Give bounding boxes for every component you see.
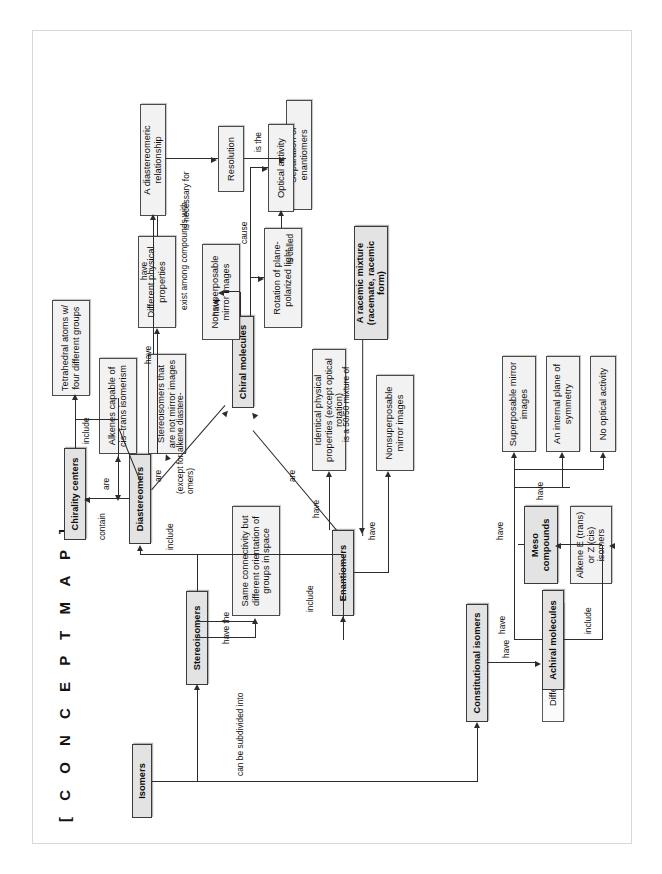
edge-label-are-enantiomers-chiral: are	[288, 470, 298, 482]
arrowhead-alkene-ez-isomers	[609, 543, 615, 549]
edge-diffphys-to-relationship	[157, 216, 158, 236]
arrowhead-optical-activity	[278, 210, 284, 216]
arrowhead-constitutional	[474, 722, 480, 728]
arrowhead-diastereomers-from-alkenes	[115, 495, 121, 501]
node-diastereomers[interactable]: Diastereomers	[129, 454, 151, 544]
edge-label-include-chirality: include	[82, 417, 92, 444]
node-superposable-mirror-images[interactable]: Superposable mirror images	[502, 356, 536, 452]
arrowhead-resolution	[211, 157, 217, 163]
page-title: [ C O N C E P T M A P ]	[56, 523, 73, 822]
edge-isomers-to-constitutional	[477, 726, 478, 782]
arrowhead-same-connectivity	[252, 618, 258, 624]
node-isomers[interactable]: Isomers	[132, 744, 152, 818]
node-achiral-molecules[interactable]: Achiral molecules	[542, 590, 564, 690]
edge-enantiomers-to-mirror-h2	[388, 475, 389, 573]
edge-chiral-to-mirror-h2	[240, 292, 241, 316]
node-chirality-centers[interactable]: Chirality centers	[64, 448, 86, 540]
node-optical-activity[interactable]: Optical activity	[268, 124, 294, 212]
edge-achiral-include-v	[564, 639, 602, 640]
edge-achiral-to-meso-v	[558, 544, 602, 545]
node-racemic-mixture[interactable]: A racemic mixture (racemate, racemic for…	[354, 226, 388, 340]
edge-label-include-achiral: include	[584, 607, 594, 634]
edge-label-are-alkenes: are	[102, 478, 112, 490]
edge-label-have-constitutional: have	[502, 640, 512, 658]
edge-label-is-necessary-for: is necessary for	[182, 171, 192, 230]
node-meso-compounds[interactable]: Meso compounds	[524, 506, 558, 584]
edge-achiral-include-h2	[602, 545, 603, 640]
arrowhead-meso-compounds	[555, 543, 561, 549]
node-stereoisomers[interactable]: Stereoisomers	[186, 591, 208, 685]
edge-chiral-cause-h	[250, 168, 251, 316]
rotated-stage: [ C O N C E P T M A P ] Isomers Constitu…	[36, 34, 628, 840]
edge-achiral-have-h	[514, 456, 515, 640]
arrowhead-nonsuperposable-enantiomers	[385, 471, 391, 477]
node-internal-plane-of-symmetry[interactable]: An internal plane of symmetry	[546, 356, 580, 452]
edge-sameconn-in	[255, 622, 256, 638]
edge-chiral-to-mirror-v	[222, 291, 240, 292]
edge-achiral-have-nooptical-h	[603, 456, 604, 470]
edge-achiral-have-v	[514, 639, 542, 640]
edge-label-have-the: have the	[222, 612, 232, 644]
edge-meso-have-v	[518, 544, 524, 545]
edge-label-have-alkene-ez: have	[536, 482, 546, 500]
edge-label-cause: cause	[240, 222, 250, 244]
node-rotation-plane-polarized-light[interactable]: Rotation of plane-polarized light	[264, 228, 302, 328]
arrowhead-optical-activity-from-chiral	[262, 166, 268, 172]
edge-label-have-achiral: have	[498, 616, 508, 634]
node-alkene-ez-isomers[interactable]: Alkene E (trans) or Z (cis) isomers	[570, 506, 612, 584]
edge-label-have-meso: have	[496, 522, 506, 540]
edge-enantiomers-to-mirror-v	[354, 572, 388, 573]
arrowhead-diastereomers	[137, 545, 143, 551]
edge-stereo-trunk-right	[197, 555, 198, 591]
arrowhead-enantiomers	[340, 616, 346, 622]
edge-stereo-to-enantiomers-v	[197, 554, 343, 555]
edge-constitutional-to-connectivity	[488, 662, 536, 663]
edge-label-can-be-subdivided-into: can be subdivided into	[236, 693, 246, 776]
edge-label-have-enantiomers-mirror: have	[368, 522, 378, 540]
arrowhead-not-mirror	[163, 453, 171, 461]
arrowhead-different-connectivity	[535, 661, 541, 667]
edge-notmirror-to-relationship	[153, 216, 154, 354]
edge-alkene-have-v	[562, 487, 570, 488]
edge-label-include-diastereomers: include	[166, 523, 176, 550]
edge-achiral-have-internal-h	[562, 456, 563, 488]
edge-isomers-to-stereoisomers	[197, 688, 198, 782]
edge-stereo-to-diastereomers-v	[140, 554, 197, 555]
edge-racemic-to-enantiomers	[362, 340, 363, 536]
edge-enantiomers-to-identical	[329, 475, 330, 530]
arrowhead-chirality-centers	[84, 497, 90, 503]
edge-label-have-chiral-mirror: have	[212, 298, 222, 316]
edge-label-is-the: is the	[254, 132, 264, 152]
arrowhead-diastereomeric-relationship-a	[150, 214, 156, 220]
edge-diastereomers-to-chirality-v	[86, 498, 129, 499]
arrowhead-tetrahedral	[72, 394, 78, 400]
node-same-connectivity[interactable]: Same connectivity but different orientat…	[232, 506, 280, 616]
node-nonsuperposable-mirror-images-enantiomers[interactable]: Nonsuperposable mirror images	[376, 375, 414, 471]
arrowhead-no-optical-activity	[600, 452, 606, 458]
concept-map-canvas: [ C O N C E P T M A P ] Isomers Constitu…	[36, 34, 628, 840]
edge-achiral-have-nooptical-v	[514, 469, 603, 470]
node-diastereomeric-relationship[interactable]: A diastereomeric relationship	[140, 104, 166, 216]
arrowhead-different-physical	[154, 328, 160, 334]
edge-label-contain: contain	[98, 513, 108, 540]
node-different-physical-properties[interactable]: Different physical properties	[138, 236, 176, 328]
edge-label-have-to-diastereomeric: have	[140, 262, 150, 280]
arrowhead-superposable-mirror	[511, 452, 517, 458]
edge-label-include-enantiomers: include	[306, 585, 316, 612]
edge-chirality-include-h	[75, 396, 76, 448]
arrowhead-separation	[279, 157, 285, 163]
node-constitutional-isomers[interactable]: Constitutional isomers	[466, 604, 488, 722]
concept-map-page: [ C O N C E P T M A P ] Isomers Constitu…	[0, 0, 662, 874]
arrowhead-enantiomers-from-racemic	[359, 528, 365, 534]
edge-alkenes-are-h	[118, 454, 119, 499]
edge-label-have-enantiomers-identical: have	[312, 500, 322, 518]
node-tetrahedral-atoms[interactable]: Tetrahedral atoms w/ four different grou…	[52, 300, 90, 396]
edge-label-is-called: is called	[286, 234, 296, 264]
edge-stereo-to-enantiomers-h	[343, 555, 344, 640]
node-no-optical-activity[interactable]: No optical activity	[590, 356, 616, 452]
arrowhead-nonsuperposable-chiral	[218, 290, 224, 296]
arrowhead-internal-plane	[559, 452, 565, 458]
edge-label-except-alkene-diastereomers: (except for alkene diastere- omers)	[176, 393, 195, 494]
node-resolution[interactable]: Resolution	[218, 126, 244, 192]
arrowhead-stereoisomers	[194, 684, 200, 690]
